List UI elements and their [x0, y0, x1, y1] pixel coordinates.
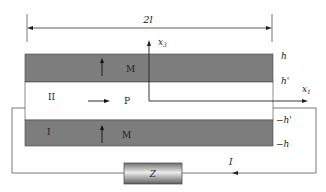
- polarization-label: P: [124, 96, 130, 106]
- interface-neg-h-label: −h: [276, 139, 289, 149]
- region-ii-label: II: [48, 92, 56, 102]
- dimension-label: 2l: [142, 14, 153, 25]
- bottom-magnetic-layer: [25, 120, 273, 146]
- load-label: Z: [149, 169, 157, 179]
- x3-arrow-icon: [147, 40, 151, 46]
- laminate-diagram: 2l M II P I M x3 x1 h h' −h' −h Z I: [0, 0, 326, 192]
- x1-axis-label: x1: [302, 84, 311, 95]
- dimension-right-arrow-icon: [266, 26, 272, 30]
- dimension-2l: 2l: [27, 14, 272, 42]
- region-i-label: I: [47, 127, 51, 137]
- top-magnetization-label: M: [126, 64, 135, 74]
- current-direction-arrow-icon: [232, 171, 238, 175]
- dimension-left-arrow-icon: [27, 26, 33, 30]
- x1-arrow-icon: [302, 99, 308, 103]
- interface-h-label: h: [281, 51, 287, 61]
- interface-neg-h-prime-label: −h': [276, 115, 292, 125]
- bottom-magnetization-label: M: [122, 130, 131, 140]
- x3-axis-label: x3: [158, 37, 167, 48]
- interface-h-prime-label: h': [281, 76, 289, 86]
- current-label: I: [228, 157, 233, 167]
